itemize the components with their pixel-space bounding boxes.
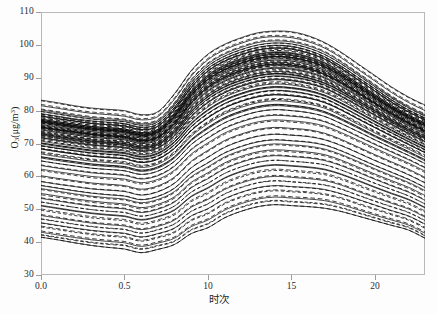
x-axis-label: 时次 — [0, 294, 437, 305]
curves-svg — [0, 0, 437, 314]
ozone-curve — [41, 196, 425, 245]
ozone-curve — [41, 201, 425, 249]
ozone-curve — [41, 200, 425, 248]
chart-figure: O3(μg/m3) 30405060708090100110 0.00.5101… — [0, 0, 437, 314]
ozone-curve — [41, 197, 425, 246]
ozone-curve — [41, 165, 425, 220]
ozone-curve — [41, 205, 425, 253]
ozone-curve — [41, 186, 425, 237]
ozone-curve — [41, 150, 425, 208]
curve-ensemble — [0, 0, 437, 314]
ozone-curve — [41, 170, 425, 224]
ozone-curve — [41, 190, 425, 240]
ozone-curve — [41, 205, 425, 253]
